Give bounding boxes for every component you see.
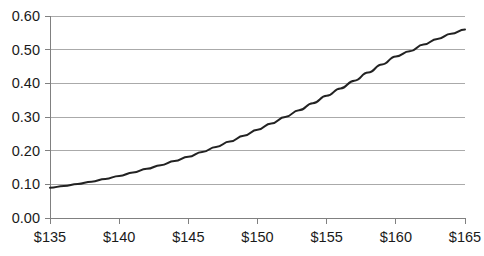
y-axis-tick-label: 0.60 <box>12 8 40 24</box>
y-axis-tick-label: 0.40 <box>12 75 40 91</box>
y-axis-tick-label: 0.30 <box>12 109 40 125</box>
x-axis-tick-label: $145 <box>172 229 204 245</box>
x-axis-tick-label: $135 <box>34 229 66 245</box>
y-axis-labels: 0.000.100.200.300.400.500.60 <box>12 8 40 226</box>
y-axis-tick-label: 0.00 <box>12 210 40 226</box>
gridlines <box>50 16 465 218</box>
data-line-curve <box>50 29 465 187</box>
y-axis-tick-label: 0.20 <box>12 143 40 159</box>
y-axis-tick-label: 0.50 <box>12 42 40 58</box>
chart-container: 0.000.100.200.300.400.500.60 $135$140$14… <box>0 0 484 256</box>
x-axis-tick-label: $150 <box>241 229 273 245</box>
x-axis-tick-label: $140 <box>103 229 135 245</box>
line-chart: 0.000.100.200.300.400.500.60 $135$140$14… <box>0 0 484 256</box>
y-axis-tick-label: 0.10 <box>12 176 40 192</box>
data-series <box>50 29 465 187</box>
x-axis-tick-label: $165 <box>449 229 481 245</box>
x-axis-tick-label: $155 <box>311 229 343 245</box>
x-axis-tick-marks <box>50 218 465 224</box>
x-axis-tick-label: $160 <box>380 229 412 245</box>
x-axis-labels: $135$140$145$150$155$160$165 <box>34 229 481 245</box>
